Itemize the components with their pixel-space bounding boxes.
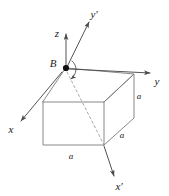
axis-x-label: x <box>8 123 14 135</box>
axis-x-prime-label: x' <box>114 180 123 192</box>
box-top-face <box>43 68 134 102</box>
axes-group <box>21 22 150 176</box>
dim-label-right-vertical: a <box>137 91 142 101</box>
point-b-dot <box>63 65 69 71</box>
point-b-label: B <box>50 57 57 69</box>
box-hidden-edges <box>67 72 104 145</box>
rotation-arc-path <box>71 61 76 79</box>
axis-x-line <box>21 72 62 121</box>
box-front-face <box>43 102 104 145</box>
axis-z-label: z <box>54 27 60 39</box>
figure-container: B z y x y' x' a a a <box>0 0 169 196</box>
dim-label-front-bottom: a <box>69 151 74 161</box>
axis-y-label: y <box>154 75 160 87</box>
geometry-diagram: B z y x y' x' a a a <box>0 0 169 196</box>
axis-y-prime-label: y' <box>89 8 98 20</box>
hidden-edge-diagonal <box>67 72 104 145</box>
axis-y-prime-line <box>67 22 89 67</box>
axis-x-prime-line <box>104 146 114 176</box>
axis-y-line <box>69 69 150 73</box>
rotation-arc-icon <box>71 61 76 79</box>
dim-label-right-depth: a <box>120 130 125 140</box>
